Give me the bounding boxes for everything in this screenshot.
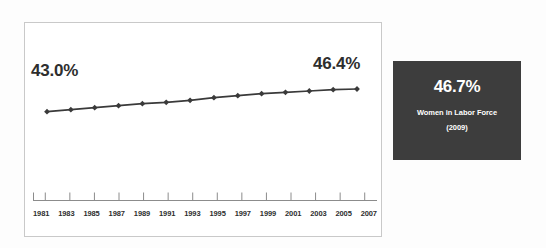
stat-panel-value: 46.7% xyxy=(434,78,481,95)
data-point-marker xyxy=(283,89,289,95)
stat-panel: 46.7% Women in Labor Force (2009) xyxy=(393,61,521,160)
data-point-marker xyxy=(187,97,193,103)
chart-container: 43.0% 46.4% 1981198319851987198919911993… xyxy=(24,22,382,237)
x-axis-tick-labels: 1981198319851987198919911993199519971999… xyxy=(33,209,377,223)
x-axis-tick-label: 1995 xyxy=(209,209,225,218)
data-point-marker xyxy=(116,103,122,109)
x-axis-tick-label: 1997 xyxy=(235,209,251,218)
data-point-marker xyxy=(68,107,74,113)
data-point-marker xyxy=(211,95,217,101)
x-axis-tick-label: 2003 xyxy=(310,209,326,218)
plot-area: 43.0% 46.4% 1981198319851987198919911993… xyxy=(25,23,381,236)
data-point-marker xyxy=(330,87,336,93)
x-axis-tick-label: 1999 xyxy=(260,209,276,218)
end-value-label: 46.4% xyxy=(313,54,360,74)
x-axis-tick-label: 2007 xyxy=(361,209,377,218)
x-axis-tick-label: 1991 xyxy=(159,209,175,218)
data-point-marker xyxy=(163,99,169,105)
x-axis-tick-label: 1985 xyxy=(83,209,99,218)
data-point-marker xyxy=(44,109,50,115)
data-point-marker xyxy=(354,86,360,92)
data-point-marker xyxy=(259,91,265,97)
x-axis-tick-label: 1987 xyxy=(109,209,125,218)
screenshot-canvas: 43.0% 46.4% 1981198319851987198919911993… xyxy=(0,0,546,248)
x-axis-tick-label: 1983 xyxy=(58,209,74,218)
x-axis xyxy=(33,191,377,205)
data-point-marker xyxy=(235,93,241,99)
x-axis-tick-label: 2001 xyxy=(285,209,301,218)
data-point-marker xyxy=(306,88,312,94)
data-point-marker xyxy=(92,105,98,111)
stat-panel-caption: Women in Labor Force xyxy=(417,109,497,117)
x-axis-tick-label: 1993 xyxy=(184,209,200,218)
start-value-label: 43.0% xyxy=(31,61,78,81)
data-point-marker xyxy=(139,101,145,107)
x-axis-tick-label: 1981 xyxy=(33,209,49,218)
stat-panel-year: (2009) xyxy=(446,124,467,132)
x-axis-tick-label: 1989 xyxy=(134,209,150,218)
x-axis-tick-label: 2005 xyxy=(335,209,351,218)
